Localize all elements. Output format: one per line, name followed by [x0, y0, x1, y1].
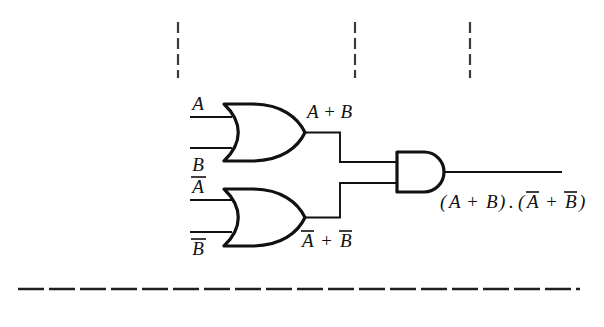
dashed-marks-group	[178, 22, 470, 78]
output-expr-open-paren-2: (	[518, 191, 526, 213]
interconnect-wires-group	[305, 133, 397, 218]
and-gate-body	[397, 152, 444, 192]
or-gate-top-body	[224, 104, 305, 161]
output-expr-a: A	[447, 191, 461, 212]
input-labels-group: A B A B	[0, 0, 206, 259]
logic-circuit-diagram: A B A B A + B A + B ( A + B	[0, 0, 604, 327]
output-expr-b-bar: B	[565, 191, 577, 212]
input-label-a: A	[190, 93, 204, 114]
input-label-a-bar: A	[190, 176, 204, 197]
output-expr-open-paren: (	[440, 191, 448, 213]
label-bottom-or-output: A + B	[300, 230, 352, 251]
wire-bottom-or-to-and	[305, 183, 397, 218]
or-gate-bottom[interactable]	[224, 189, 305, 246]
output-expr-dot: .	[509, 191, 514, 212]
label-bottom-or-output-b: B	[340, 230, 352, 251]
label-top-or-output: A + B	[305, 101, 353, 122]
output-expr-close-paren-2: )	[578, 191, 585, 213]
label-bottom-or-output-operator: +	[320, 230, 333, 251]
or-gate-top[interactable]	[224, 104, 305, 161]
output-expr-b: B	[486, 191, 498, 212]
input-label-b-bar: B	[192, 238, 204, 259]
output-expression: ( A + B ) . ( A + B )	[440, 191, 585, 213]
output-expr-plus-2: +	[545, 191, 558, 212]
circuit-canvas: A B A B A + B A + B ( A + B	[0, 0, 604, 327]
wire-top-or-to-and	[305, 133, 397, 163]
output-expr-close-paren: )	[498, 191, 505, 213]
input-label-b: B	[192, 154, 204, 175]
output-expr-plus-1: +	[466, 191, 479, 212]
output-expr-a-bar: A	[525, 191, 539, 212]
and-gate[interactable]	[397, 152, 444, 192]
or-gate-bottom-body	[224, 189, 305, 246]
label-bottom-or-output-a: A	[300, 230, 314, 251]
label-top-or-output-text: A + B	[305, 101, 353, 122]
